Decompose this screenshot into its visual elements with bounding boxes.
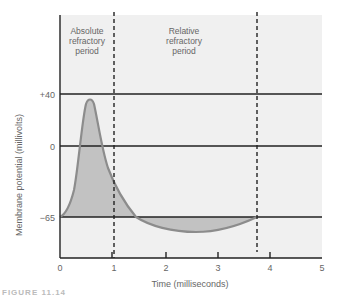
x-tick-labels: 0 1 2 3 4 5 xyxy=(57,263,324,273)
svg-text:0: 0 xyxy=(50,142,55,152)
action-potential-chart: Absolute refractory period Relative refr… xyxy=(0,0,338,299)
figure-caption: FIGURE 11.14 xyxy=(2,288,66,297)
svg-text:period: period xyxy=(75,46,99,56)
svg-text:5: 5 xyxy=(319,263,324,273)
x-axis-title: Time (milliseconds) xyxy=(151,279,228,289)
svg-text:period: period xyxy=(172,46,196,56)
svg-text:−65: −65 xyxy=(40,213,55,223)
y-tick-labels: +40 0 −65 xyxy=(40,90,55,223)
svg-text:1: 1 xyxy=(111,263,116,273)
svg-text:3: 3 xyxy=(215,263,220,273)
svg-text:Absolute: Absolute xyxy=(70,26,103,36)
svg-text:refractory: refractory xyxy=(69,36,106,46)
svg-text:4: 4 xyxy=(267,263,272,273)
y-axis-title: Membrane potential (millivolts) xyxy=(14,114,24,236)
svg-text:Relative: Relative xyxy=(169,26,200,36)
svg-text:0: 0 xyxy=(57,263,62,273)
svg-text:refractory: refractory xyxy=(166,36,203,46)
svg-text:2: 2 xyxy=(163,263,168,273)
svg-text:+40: +40 xyxy=(40,90,55,100)
